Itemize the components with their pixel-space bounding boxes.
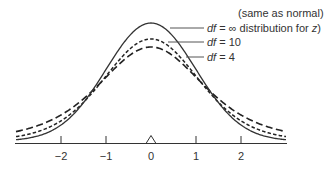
curve-df-4 xyxy=(16,47,286,132)
tick-label: −1 xyxy=(100,150,113,162)
tick-label: 1 xyxy=(193,150,199,162)
curve-df-10 xyxy=(16,39,286,137)
tick-label: −2 xyxy=(55,150,68,162)
mean-triangle-marker xyxy=(146,136,156,144)
tick-label: 2 xyxy=(238,150,244,162)
annotation-normal-line1: (same as normal) xyxy=(238,7,324,19)
annotation-df10: df = 10 xyxy=(207,36,241,48)
annotation-normal: df = ∞ distribution for z) xyxy=(207,22,321,34)
annotation-df4: df = 4 xyxy=(207,51,235,63)
curve-normal xyxy=(16,23,286,140)
t-distribution-chart: −2 −1 0 1 2 (same as normal) df = ∞ dist… xyxy=(0,0,332,170)
tick-label: 0 xyxy=(148,150,154,162)
